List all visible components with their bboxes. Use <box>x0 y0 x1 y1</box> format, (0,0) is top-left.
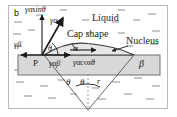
liquid-label: Liquid <box>92 13 119 23</box>
theta-right-label: θ <box>80 78 84 87</box>
gamma-beta-label: γβ <box>14 41 21 49</box>
gamma-alpha-cos-theta-label: γαcosθ <box>73 59 95 67</box>
cap-shape-label: Cap shape <box>67 29 108 39</box>
beta-phase-label: β <box>139 59 144 69</box>
gamma-alpha-sin-theta-label: γαsinθ <box>25 6 46 14</box>
gamma-alpha-label: γα <box>50 17 57 25</box>
alpha-angle-label: α <box>73 44 78 53</box>
point-p-label: P <box>33 59 38 68</box>
panel-id-label: b <box>14 9 19 18</box>
gamma-alpha-beta-label: γαβ <box>49 60 60 68</box>
radius-label: r <box>97 78 100 86</box>
nucleus-label: Nucleus <box>126 36 159 46</box>
theta-contact-angle-label: θ <box>48 45 52 53</box>
figure-panel-b: b γαsinθ γα Liquid Cap shape Nucleus γβ … <box>0 0 177 117</box>
theta-left-label: θ <box>66 78 70 87</box>
